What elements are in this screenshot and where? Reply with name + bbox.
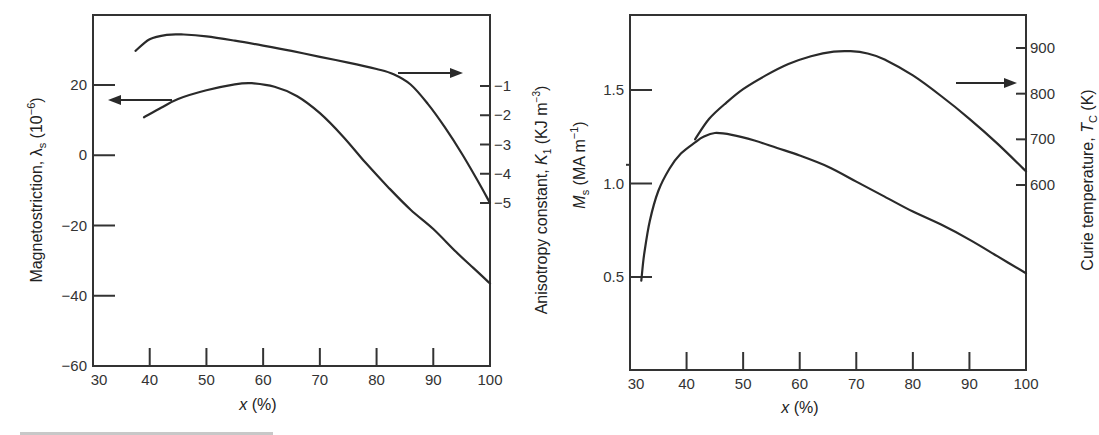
left-curves bbox=[136, 34, 491, 283]
left-chart: 30405060708090100 200−20−40−60 −1−2−3−4−… bbox=[25, 15, 553, 413]
y-left-tick-label: −20 bbox=[62, 217, 87, 234]
right-curves bbox=[641, 51, 1026, 281]
left-x-axis-label: x (%) bbox=[238, 396, 276, 413]
x-tick-label: 60 bbox=[255, 371, 272, 388]
arrow-right-icon bbox=[956, 78, 1017, 88]
left-x-ticks: 30405060708090100 bbox=[91, 348, 503, 388]
arrow-left-icon bbox=[108, 95, 172, 105]
left-plot-frame bbox=[93, 15, 490, 366]
curve-curie-temperature-tc bbox=[695, 51, 1026, 171]
figure: 30405060708090100 200−20−40−60 −1−2−3−4−… bbox=[0, 0, 1099, 435]
right-x-axis-label: x (%) bbox=[780, 399, 818, 416]
left-y-axis-label-magnetostriction: Magnetostriction, λs (10−6) bbox=[25, 97, 48, 282]
x-tick-label: 80 bbox=[905, 375, 922, 392]
y-right-tick-label: −5 bbox=[494, 194, 511, 211]
x-tick-label: 100 bbox=[1013, 375, 1038, 392]
y-left-tick-label: −40 bbox=[62, 287, 87, 304]
curve-saturation-magnetization-ms bbox=[641, 133, 1026, 281]
x-tick-label: 70 bbox=[848, 375, 865, 392]
right-y-axis-label-curie: Curie temperature, TC (K) bbox=[1079, 89, 1099, 270]
curve-anisotropy-constant-k1 bbox=[136, 34, 491, 203]
y-left-tick-label: 0.5 bbox=[603, 268, 624, 285]
right-y-axis-label-ms: Ms (MA m−1) bbox=[568, 121, 591, 208]
x-tick-label: 40 bbox=[141, 371, 158, 388]
left-y-ticks-anisotropy: −1−2−3−4−5 bbox=[480, 77, 511, 211]
right-y-ticks-curie: 900800700600 bbox=[1016, 39, 1055, 193]
x-tick-label: 90 bbox=[425, 371, 442, 388]
y-right-tick-label: −3 bbox=[494, 136, 511, 153]
left-y-ticks-magnetostriction: 200−20−40−60 bbox=[62, 76, 115, 374]
right-chart: 30405060708090100 1.51.00.5 900800700600… bbox=[568, 15, 1099, 416]
x-tick-label: 30 bbox=[91, 371, 108, 388]
y-left-tick-label: 20 bbox=[70, 76, 87, 93]
y-right-tick-label: 700 bbox=[1030, 130, 1055, 147]
y-left-tick-label: 1.0 bbox=[603, 175, 624, 192]
x-tick-label: 50 bbox=[198, 371, 215, 388]
y-right-tick-label: 800 bbox=[1030, 85, 1055, 102]
x-tick-label: 40 bbox=[678, 375, 695, 392]
y-left-tick-label: 0 bbox=[79, 146, 87, 163]
y-right-tick-label: 600 bbox=[1030, 176, 1055, 193]
x-tick-label: 60 bbox=[791, 375, 808, 392]
left-y-axis-label-anisotropy: Anisotropy constant, K1 (KJ m−3) bbox=[531, 86, 553, 315]
right-x-ticks: 30405060708090100 bbox=[628, 352, 1039, 392]
x-tick-label: 100 bbox=[477, 371, 502, 388]
y-right-tick-label: 900 bbox=[1030, 39, 1055, 56]
x-tick-label: 70 bbox=[312, 371, 329, 388]
curve-magnetostriction-s bbox=[144, 83, 490, 283]
y-left-tick-label: −60 bbox=[62, 357, 87, 374]
x-tick-label: 80 bbox=[368, 371, 385, 388]
arrow-right-icon bbox=[398, 68, 463, 78]
y-right-tick-label: −2 bbox=[494, 106, 511, 123]
x-tick-label: 90 bbox=[961, 375, 978, 392]
x-tick-label: 50 bbox=[735, 375, 752, 392]
y-right-tick-label: −1 bbox=[494, 77, 511, 94]
y-left-tick-label: 1.5 bbox=[603, 81, 624, 98]
y-right-tick-label: −4 bbox=[494, 165, 511, 182]
x-tick-label: 30 bbox=[628, 375, 645, 392]
right-plot-frame bbox=[630, 15, 1026, 370]
